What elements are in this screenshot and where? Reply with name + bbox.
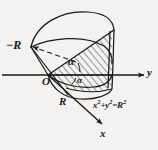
label-circle-equation: x2+y2=R2 bbox=[93, 99, 126, 110]
eq-sup-3: 2 bbox=[123, 98, 126, 105]
label-y-axis: y bbox=[147, 67, 152, 78]
label-minus-r: −R bbox=[6, 39, 21, 51]
label-alpha-lower: α bbox=[77, 76, 82, 85]
label-r: R bbox=[59, 96, 66, 107]
label-origin-o: O bbox=[42, 76, 50, 87]
label-x-axis: x bbox=[100, 128, 106, 139]
math-figure: −R O R α α y x x2+y2=R2 bbox=[0, 0, 158, 150]
label-alpha-upper: α bbox=[68, 56, 74, 67]
